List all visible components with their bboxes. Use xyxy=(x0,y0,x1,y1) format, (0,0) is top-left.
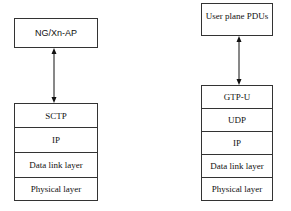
layer-data-link: Data link layer xyxy=(15,153,97,178)
left-bidirectional-arrow-icon xyxy=(50,48,58,104)
ng-xn-ap-label: NG/Xn-AP xyxy=(35,28,77,38)
layer-udp: UDP xyxy=(202,109,272,132)
user-plane-pdus-box: User plane PDUs xyxy=(201,3,273,36)
layer-gtp-u: GTP-U xyxy=(202,86,272,109)
right-bidirectional-arrow-icon xyxy=(235,36,243,86)
layer-ip: IP xyxy=(202,132,272,155)
layer-data-link: Data link layer xyxy=(202,155,272,178)
layer-sctp: SCTP xyxy=(15,104,97,128)
layer-physical: Physical layer xyxy=(202,178,272,200)
right-protocol-stack: GTP-U UDP IP Data link layer Physical la… xyxy=(201,85,273,201)
ng-xn-ap-box: NG/Xn-AP xyxy=(14,18,98,48)
user-plane-pdus-label: User plane PDUs xyxy=(206,11,269,21)
layer-ip: IP xyxy=(15,128,97,153)
layer-physical: Physical layer xyxy=(15,178,97,200)
left-protocol-stack: SCTP IP Data link layer Physical layer xyxy=(14,103,98,201)
